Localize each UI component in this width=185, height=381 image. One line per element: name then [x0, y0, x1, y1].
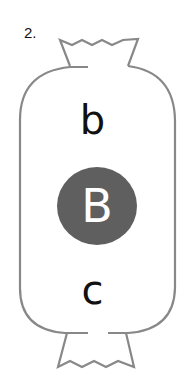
candy-bottom-twist	[58, 333, 134, 367]
top-letter: b	[0, 96, 185, 144]
bottom-letter: c	[0, 266, 185, 314]
center-letter: B	[57, 167, 137, 245]
candy-top-twist	[60, 39, 138, 66]
